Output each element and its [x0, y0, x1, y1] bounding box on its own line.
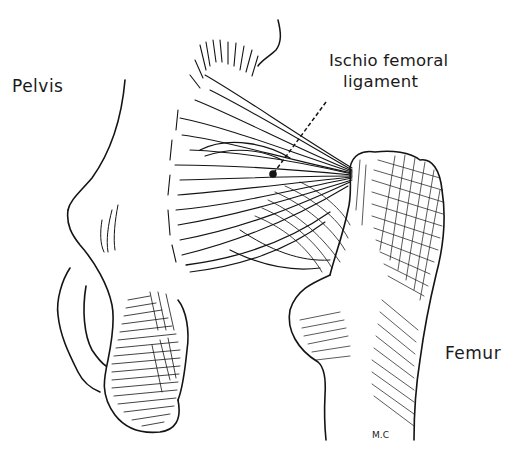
ischium-hatching [112, 292, 180, 426]
femur-bone [230, 151, 444, 440]
anatomy-figure: Pelvis Ischio femoral ligament Femur M.C [0, 0, 519, 456]
pelvis-bone [58, 80, 188, 432]
pointer-dot [269, 170, 277, 178]
femur-hatching [300, 155, 443, 426]
ischiofemoral-ligament [168, 20, 352, 272]
ligament-label-line2: ligament [343, 74, 418, 91]
ligament-label-line1: Ischio femoral [329, 53, 448, 70]
artist-signature: M.C [372, 430, 389, 440]
pelvis-label: Pelvis [12, 78, 63, 95]
femur-label: Femur [445, 345, 501, 362]
